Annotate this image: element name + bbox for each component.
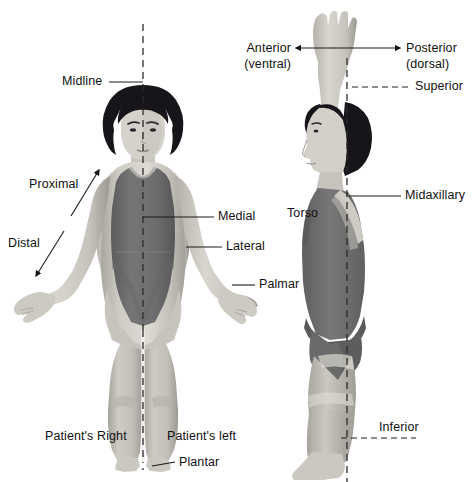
- label-plantar: Plantar: [179, 455, 219, 470]
- anterior-view-figure: [14, 24, 258, 472]
- label-posterior: Posterior (dorsal): [406, 40, 457, 72]
- label-lateral: Lateral: [226, 239, 265, 254]
- label-patients-left: Patient's left: [167, 429, 236, 444]
- label-distal: Distal: [8, 236, 40, 251]
- label-patients-right: Patient's Right: [45, 429, 127, 444]
- label-midline: Midline: [62, 74, 102, 89]
- label-anterior-line2: (ventral): [243, 56, 291, 72]
- lateral-view-figure: [292, 11, 416, 482]
- label-superior: Superior: [415, 79, 463, 94]
- label-midaxillary: Midaxillary: [405, 188, 465, 203]
- label-posterior-line1: Posterior: [406, 40, 457, 56]
- label-palmar: Palmar: [259, 277, 299, 292]
- label-inferior: Inferior: [379, 420, 419, 435]
- label-anterior-line1: Anterior: [243, 40, 291, 56]
- label-torso: Torso: [287, 206, 318, 221]
- label-proximal: Proximal: [29, 177, 78, 192]
- label-anterior: Anterior (ventral): [243, 40, 291, 72]
- distal-arrow: [36, 231, 64, 276]
- label-medial: Medial: [218, 209, 255, 224]
- label-posterior-line2: (dorsal): [406, 56, 457, 72]
- anatomical-directions-diagram: Midline Proximal Distal Medial Lateral P…: [0, 0, 476, 482]
